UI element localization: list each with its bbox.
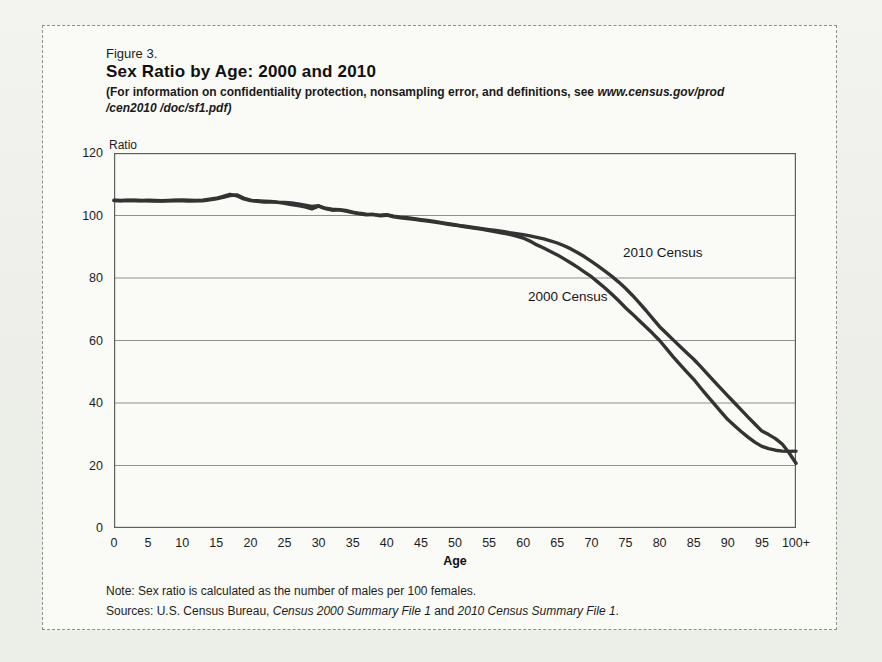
source-file-2000: Census 2000 Summary File 1 — [273, 604, 431, 618]
x-tick-label: 30 — [312, 536, 326, 550]
y-tick-label: 0 — [57, 520, 103, 536]
x-tick-label: 20 — [243, 536, 257, 550]
x-tick-label: 50 — [448, 536, 462, 550]
sources-period: . — [616, 604, 619, 618]
figure-box: Figure 3. Sex Ratio by Age: 2000 and 201… — [42, 25, 837, 630]
x-tick-label: 25 — [278, 536, 292, 550]
sources-text: Sources: U.S. Census Bureau, — [106, 604, 273, 618]
series-label-2000: 2000 Census — [528, 289, 608, 304]
figure-title: Sex Ratio by Age: 2000 and 2010 — [106, 62, 376, 82]
y-tick-label: 40 — [57, 395, 103, 411]
x-tick-label: 95 — [755, 536, 769, 550]
sources-line: Sources: U.S. Census Bureau, Census 2000… — [106, 604, 619, 618]
y-tick-label: 60 — [57, 333, 103, 349]
line-2010-census — [114, 194, 796, 463]
source-file-2010: 2010 Census Summary File 1 — [458, 604, 616, 618]
figure-number: Figure 3. — [106, 46, 157, 61]
y-tick-label: 80 — [57, 270, 103, 286]
x-tick-label: 35 — [346, 536, 360, 550]
y-tick-label: 120 — [57, 145, 103, 161]
x-tick-label: 40 — [380, 536, 394, 550]
y-tick-label: 100 — [57, 208, 103, 224]
x-tick-label: 85 — [687, 536, 701, 550]
scanned-page: Figure 3. Sex Ratio by Age: 2000 and 201… — [0, 0, 882, 662]
x-tick-label: 65 — [550, 536, 564, 550]
x-tick-label: 80 — [653, 536, 667, 550]
x-tick-label: 45 — [414, 536, 428, 550]
figure-subtitle: (For information on confidentiality prot… — [106, 85, 724, 116]
x-tick-label: 5 — [145, 536, 152, 550]
subtitle-url-line1: www.census.gov/prod — [597, 85, 724, 99]
x-tick-label: 75 — [619, 536, 633, 550]
sources-joiner: and — [431, 604, 458, 618]
x-tick-label: 0 — [111, 536, 118, 550]
subtitle-text: (For information on confidentiality prot… — [106, 85, 597, 99]
y-axis-title: Ratio — [109, 138, 137, 152]
x-tick-label: 60 — [516, 536, 530, 550]
y-tick-label: 20 — [57, 458, 103, 474]
x-tick-label: 90 — [721, 536, 735, 550]
x-tick-label: 15 — [209, 536, 223, 550]
subtitle-url-line2: /cen2010 /doc/sf1.pdf) — [106, 101, 231, 115]
sex-ratio-line-chart — [114, 153, 796, 528]
plot-area: 2010 Census 2000 Census — [114, 153, 796, 528]
x-tick-label: 55 — [482, 536, 496, 550]
series-label-2010: 2010 Census — [623, 245, 703, 260]
x-axis-title: Age — [443, 554, 467, 568]
x-tick-label: 70 — [584, 536, 598, 550]
x-tick-label: 10 — [175, 536, 189, 550]
x-tick-label: 100+ — [782, 536, 810, 550]
line-2000-census — [114, 195, 796, 452]
note-line: Note: Sex ratio is calculated as the num… — [106, 584, 476, 598]
